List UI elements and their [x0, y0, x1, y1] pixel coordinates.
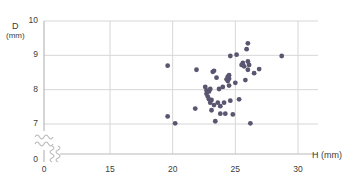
data-point: [165, 114, 170, 119]
data-point: [209, 98, 214, 103]
x-tick-label-30: 30: [288, 165, 308, 174]
data-point: [245, 67, 250, 72]
x-tick-label-25: 25: [225, 165, 245, 174]
data-point: [173, 121, 178, 126]
data-point: [208, 87, 213, 92]
x-axis-title: H (mm): [312, 150, 342, 160]
x-tick-label-20: 20: [163, 165, 183, 174]
data-point: [209, 108, 214, 113]
scatter-plot-figure: D (mm) H (mm) 078910015202530: [0, 0, 363, 194]
y-tick-label-8: 8: [22, 85, 38, 94]
data-point: [214, 75, 219, 80]
axis-lines: [44, 21, 318, 162]
data-point: [228, 98, 233, 103]
data-point: [223, 111, 228, 116]
data-point: [230, 112, 235, 117]
axis-break-marks: [35, 135, 60, 162]
y-axis-unit: (mm): [6, 31, 25, 41]
y-tick-label-9: 9: [22, 50, 38, 59]
data-point: [194, 67, 199, 72]
data-point: [237, 97, 242, 102]
data-point: [257, 67, 262, 72]
y-axis-symbol: D: [12, 21, 19, 31]
data-point: [218, 111, 223, 116]
data-point: [247, 63, 252, 68]
data-point: [243, 78, 248, 83]
x-axis-break-right: [56, 146, 60, 162]
y-tick-label-0: 0: [22, 155, 38, 164]
x-tick-label-0: 0: [34, 165, 54, 174]
data-point: [165, 63, 170, 68]
data-point: [233, 80, 238, 85]
y-axis-break-upper: [35, 135, 53, 139]
data-points-group: [165, 41, 284, 126]
data-point: [234, 52, 239, 57]
x-axis-break-left: [50, 146, 54, 162]
gridlines: [44, 21, 318, 154]
data-point: [242, 64, 247, 69]
data-point: [220, 85, 225, 90]
data-point: [228, 54, 233, 59]
data-point: [222, 100, 227, 105]
data-point: [212, 68, 217, 73]
data-point: [227, 76, 232, 81]
data-point: [218, 104, 223, 109]
data-point: [213, 119, 218, 124]
y-tick-label-7: 7: [22, 119, 38, 128]
data-point: [245, 41, 250, 46]
data-point: [248, 121, 253, 126]
data-point: [279, 54, 284, 59]
data-point: [252, 71, 257, 76]
data-point: [193, 106, 198, 111]
data-point: [244, 47, 249, 52]
data-point: [227, 83, 232, 88]
y-axis-break-lower: [35, 142, 53, 146]
x-tick-label-15: 15: [100, 165, 120, 174]
y-tick-label-10: 10: [22, 16, 38, 25]
